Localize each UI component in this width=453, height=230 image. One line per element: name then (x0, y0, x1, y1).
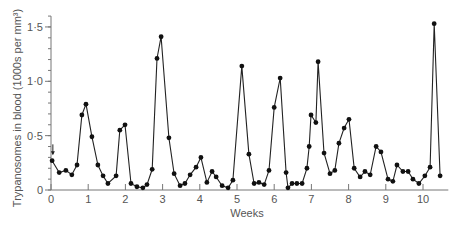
data-point (123, 122, 128, 127)
data-point (57, 170, 62, 175)
y-tick-label: 0 (37, 184, 43, 196)
data-point (342, 126, 347, 131)
data-point (79, 113, 84, 118)
data-point (313, 120, 318, 125)
data-point (428, 165, 433, 170)
data-point (178, 183, 183, 188)
data-point (220, 183, 225, 188)
data-point (411, 177, 416, 182)
data-point (172, 171, 177, 176)
data-point (262, 182, 267, 187)
data-point (50, 158, 55, 163)
data-point (363, 169, 368, 174)
x-tick-label: 10 (417, 193, 429, 205)
x-tick-label: 5 (234, 193, 240, 205)
data-point (167, 135, 172, 140)
data-point (159, 34, 164, 39)
data-point (305, 166, 310, 171)
data-point (214, 175, 219, 180)
x-axis: 012345678910 (48, 184, 448, 205)
data-point (231, 178, 236, 183)
x-tick-label: 7 (308, 193, 314, 205)
data-point (368, 172, 373, 177)
data-point (332, 168, 337, 173)
data-point (194, 165, 199, 170)
data-point (84, 102, 89, 107)
data-point (135, 184, 140, 189)
data-point (199, 155, 204, 160)
data-point (286, 185, 291, 190)
data-point (63, 168, 68, 173)
data-point (294, 181, 299, 186)
data-point (422, 173, 427, 178)
data-point (438, 173, 443, 178)
data-point (316, 59, 321, 64)
x-tick-label: 2 (122, 193, 128, 205)
x-tick-label: 3 (160, 193, 166, 205)
data-point (309, 113, 314, 118)
data-point (284, 170, 289, 175)
data-point (114, 173, 119, 178)
y-tick-label: 1·5 (27, 21, 43, 33)
data-point (252, 181, 257, 186)
data-point (347, 117, 352, 122)
data-point (374, 144, 379, 149)
data-point (300, 181, 305, 186)
data-point (432, 21, 437, 26)
data-point (358, 175, 363, 180)
data-point (267, 168, 272, 173)
y-axis: 00·51·01·5 (27, 16, 51, 196)
data-point (140, 185, 145, 190)
x-tick-label: 1 (85, 193, 91, 205)
data-point (183, 181, 188, 186)
data-point (401, 169, 406, 174)
x-tick-label: 6 (271, 193, 277, 205)
x-axis-label: Weeks (230, 207, 264, 219)
data-point (278, 76, 283, 81)
data-point (390, 179, 395, 184)
x-tick-label: 9 (383, 193, 389, 205)
data-point (239, 64, 244, 69)
data-point (322, 151, 327, 156)
data-point (386, 177, 391, 182)
data-point (204, 180, 209, 185)
data-point (145, 182, 150, 187)
data-point (272, 105, 277, 110)
data-point (307, 144, 312, 149)
y-tick-label: 1·0 (27, 75, 43, 87)
y-tick-label: 0·5 (27, 130, 43, 142)
data-point (406, 169, 411, 174)
data-point (150, 167, 155, 172)
data-point (101, 173, 106, 178)
data-point (75, 163, 80, 168)
x-tick-label: 0 (48, 193, 54, 205)
data-point (117, 128, 122, 133)
data-point (352, 166, 357, 171)
data-point (90, 134, 95, 139)
chart: 00·51·01·5 012345678910 Trypanosomes in … (0, 0, 453, 230)
data-point (210, 169, 215, 174)
data-point (417, 181, 422, 186)
data-point (328, 171, 333, 176)
data-point (129, 181, 134, 186)
series-line (52, 24, 440, 188)
plot-area (50, 21, 443, 190)
data-point (379, 150, 384, 155)
x-tick-label: 4 (197, 193, 203, 205)
data-point (337, 141, 342, 146)
data-point (155, 56, 160, 61)
data-point (257, 180, 262, 185)
data-point (188, 172, 193, 177)
data-point (247, 152, 252, 157)
data-point (290, 181, 295, 186)
data-point (106, 181, 111, 186)
data-point (69, 172, 74, 177)
x-tick-label: 8 (346, 193, 352, 205)
y-axis-label: Trypanosomes in blood (1000s per mm³) (11, 9, 23, 207)
data-point (395, 163, 400, 168)
data-point (226, 185, 231, 190)
data-point (95, 163, 100, 168)
